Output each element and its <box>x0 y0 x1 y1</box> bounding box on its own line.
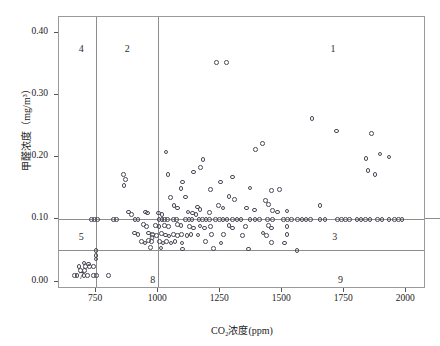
x-tick-label: 2000 <box>385 293 425 303</box>
region-label-1: 1 <box>331 43 336 54</box>
region-label-4: 4 <box>79 43 84 54</box>
data-point <box>85 273 90 278</box>
data-point <box>75 273 80 278</box>
data-point <box>225 217 230 222</box>
reference-line-extension <box>425 218 440 219</box>
region-label-3: 3 <box>332 231 337 242</box>
y-tick-label: 0.00 <box>12 275 48 285</box>
data-point <box>173 239 178 244</box>
y-tick-label: 0.40 <box>12 26 48 36</box>
data-point <box>154 233 159 238</box>
data-point <box>244 206 249 211</box>
region-label-2: 2 <box>125 43 130 54</box>
data-point <box>164 150 169 155</box>
data-point <box>94 248 99 253</box>
data-point <box>260 141 265 146</box>
x-tick-mark <box>281 288 282 292</box>
reference-line-vertical <box>96 17 97 287</box>
data-point <box>277 187 282 192</box>
region-label-5: 5 <box>79 231 84 242</box>
data-point <box>91 264 96 269</box>
data-point <box>295 248 300 253</box>
data-point <box>275 210 280 215</box>
y-tick-label: 0.10 <box>12 212 48 222</box>
data-point <box>180 241 185 246</box>
data-point <box>266 202 271 207</box>
x-tick-mark <box>219 288 220 292</box>
data-point <box>364 156 369 161</box>
data-point <box>310 116 315 121</box>
data-point <box>368 217 373 222</box>
data-point <box>174 217 179 222</box>
y-tick-mark <box>54 156 58 157</box>
data-point <box>207 217 212 222</box>
data-point <box>323 217 328 222</box>
data-point <box>308 217 313 222</box>
data-point <box>285 224 290 229</box>
data-point <box>289 217 294 222</box>
data-point <box>114 217 119 222</box>
y-tick-label: 0.30 <box>12 88 48 98</box>
data-point <box>285 232 290 237</box>
data-point <box>191 226 196 231</box>
data-point <box>221 232 226 237</box>
data-point <box>387 155 392 160</box>
y-tick-mark <box>54 281 58 282</box>
data-point <box>136 232 141 237</box>
x-axis-title: CO₂浓度(ppm) <box>58 322 426 337</box>
data-point <box>232 197 237 202</box>
x-tick-label: 1750 <box>323 293 363 303</box>
y-tick-mark <box>54 94 58 95</box>
data-point <box>218 180 223 185</box>
x-tick-mark <box>95 288 96 292</box>
y-tick-mark <box>54 32 58 33</box>
data-point <box>380 217 385 222</box>
data-point <box>347 217 352 222</box>
data-point <box>239 217 244 222</box>
data-point <box>122 183 127 188</box>
data-point <box>230 226 235 231</box>
data-point <box>285 209 290 214</box>
data-point <box>318 217 323 222</box>
data-point <box>269 226 274 231</box>
data-point <box>183 195 188 200</box>
data-point <box>265 217 270 222</box>
data-point <box>179 186 184 191</box>
data-point <box>282 241 287 246</box>
data-point <box>366 168 371 173</box>
data-point <box>269 188 274 193</box>
data-point <box>148 245 153 250</box>
data-point <box>224 60 229 65</box>
data-point <box>257 217 262 222</box>
data-point <box>136 217 141 222</box>
data-point <box>264 233 269 238</box>
x-tick-mark <box>157 288 158 292</box>
data-point <box>203 239 208 244</box>
y-tick-mark <box>54 218 58 219</box>
region-label-9: 9 <box>338 273 343 284</box>
y-axis-title: 甲醛浓度（mg/m³） <box>18 63 33 193</box>
data-point <box>175 206 180 211</box>
scatter-chart: 甲醛浓度（mg/m³） CO₂浓度(ppm) 421563789 0.000.1… <box>0 0 440 346</box>
data-point <box>180 180 185 185</box>
data-point <box>252 208 257 213</box>
data-point <box>198 207 203 212</box>
data-point <box>121 172 126 177</box>
data-point <box>123 177 128 182</box>
data-point <box>400 217 405 222</box>
data-point <box>196 233 201 238</box>
data-point <box>227 194 232 199</box>
reference-line-horizontal <box>59 250 424 251</box>
data-point <box>207 210 212 215</box>
data-point <box>318 203 323 208</box>
x-tick-label: 1000 <box>137 293 177 303</box>
data-point <box>166 224 171 229</box>
data-point <box>198 165 203 170</box>
data-point <box>378 152 383 157</box>
region-label-8: 8 <box>150 273 155 284</box>
data-point <box>191 170 196 175</box>
data-point <box>168 195 173 200</box>
x-tick-label: 1250 <box>199 293 239 303</box>
data-point <box>160 212 165 217</box>
data-point <box>189 232 194 237</box>
